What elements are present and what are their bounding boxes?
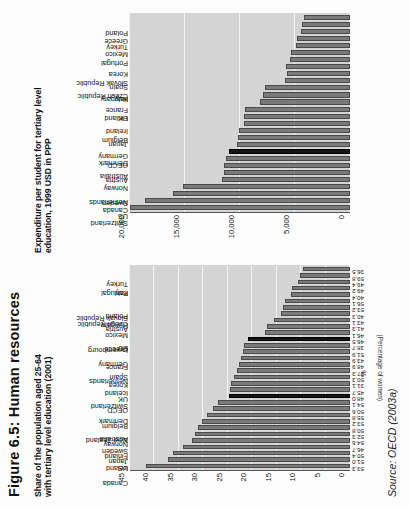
bar[interactable] bbox=[230, 387, 350, 392]
bar-slot[interactable]: Norway50.8 bbox=[130, 425, 350, 431]
bar[interactable] bbox=[297, 36, 350, 41]
bar[interactable] bbox=[146, 464, 350, 469]
bar-slot[interactable]: Czech Republic bbox=[130, 63, 350, 70]
bar-slot[interactable]: Poland bbox=[130, 14, 350, 21]
bar-slot[interactable]: Greece46.1 bbox=[130, 329, 350, 335]
bar-slot[interactable]: Canada53.3 bbox=[130, 463, 350, 469]
bar-slot[interactable]: Iceland50.3 bbox=[130, 374, 350, 380]
bar-slot[interactable]: Norway bbox=[130, 169, 350, 176]
bar[interactable] bbox=[234, 375, 350, 380]
bar-slot[interactable]: Canada bbox=[130, 190, 350, 197]
bar-slot[interactable]: Australia bbox=[130, 155, 350, 162]
bar-slot[interactable]: Netherlands bbox=[130, 176, 350, 183]
bar-slot[interactable]: Czech Republic40.4 bbox=[130, 291, 350, 297]
bar[interactable] bbox=[231, 381, 350, 386]
bar-slot[interactable]: Finland54.6 bbox=[130, 437, 350, 443]
bar-slot[interactable]: OECD48.0 bbox=[130, 393, 350, 399]
bar[interactable] bbox=[304, 15, 350, 20]
bar[interactable] bbox=[218, 400, 350, 405]
bar[interactable] bbox=[267, 324, 350, 329]
bar[interactable] bbox=[244, 343, 350, 348]
bar[interactable] bbox=[168, 457, 350, 462]
bar-slot[interactable]: EU46.5 bbox=[130, 336, 350, 342]
bar[interactable] bbox=[301, 29, 350, 34]
bar-slot[interactable]: Italy49.4 bbox=[130, 279, 350, 285]
bar[interactable] bbox=[173, 451, 350, 456]
bar[interactable] bbox=[298, 280, 350, 285]
bar[interactable] bbox=[283, 305, 350, 310]
bar[interactable] bbox=[245, 107, 350, 112]
bar[interactable] bbox=[195, 432, 350, 437]
bar[interactable] bbox=[202, 419, 350, 424]
bar-slot[interactable]: UK45.7 bbox=[130, 387, 350, 393]
bar[interactable] bbox=[260, 99, 350, 104]
bar[interactable] bbox=[229, 149, 350, 154]
bar[interactable] bbox=[244, 114, 350, 119]
bar-slot[interactable]: Germany bbox=[130, 134, 350, 141]
bar[interactable] bbox=[285, 78, 350, 83]
bar[interactable] bbox=[192, 438, 350, 443]
bar[interactable] bbox=[213, 406, 350, 411]
bar[interactable] bbox=[281, 311, 350, 316]
bar-slot[interactable]: US bbox=[130, 204, 350, 211]
bar[interactable] bbox=[274, 318, 350, 323]
bar-slot[interactable]: Turkey bbox=[130, 28, 350, 35]
bar-slot[interactable]: France51.9 bbox=[130, 348, 350, 354]
bar-slot[interactable]: Japan bbox=[130, 127, 350, 134]
bar[interactable] bbox=[207, 413, 350, 418]
bar[interactable] bbox=[292, 286, 350, 291]
bar[interactable] bbox=[290, 57, 350, 62]
bar-slot[interactable]: Mexico bbox=[130, 35, 350, 42]
bar-slot[interactable]: Korea bbox=[130, 56, 350, 63]
bar[interactable] bbox=[243, 349, 350, 354]
bar[interactable] bbox=[300, 273, 350, 278]
bar[interactable] bbox=[265, 330, 350, 335]
bar[interactable] bbox=[224, 170, 350, 175]
bar[interactable] bbox=[237, 142, 350, 147]
bar-slot[interactable]: Japan46.7 bbox=[130, 444, 350, 450]
bar-slot[interactable]: Italy bbox=[130, 84, 350, 91]
bar[interactable] bbox=[224, 163, 350, 168]
bar-slot[interactable]: Hungary bbox=[130, 77, 350, 84]
bar[interactable] bbox=[302, 22, 350, 27]
bar[interactable] bbox=[263, 92, 350, 97]
bar[interactable] bbox=[287, 71, 350, 76]
bar-slot[interactable]: Slovak Republic bbox=[130, 49, 350, 56]
bar-slot[interactable]: Poland56.1 bbox=[130, 298, 350, 304]
bar-slot[interactable]: Portugal bbox=[130, 42, 350, 49]
bar-slot[interactable]: Ireland bbox=[130, 113, 350, 120]
bar-slot[interactable]: Netherlands43.9 bbox=[130, 355, 350, 361]
bar-slot[interactable]: Belgium bbox=[130, 120, 350, 127]
bar-slot[interactable]: Switzerland bbox=[130, 197, 350, 204]
bar-slot[interactable]: UK bbox=[130, 106, 350, 113]
bar[interactable] bbox=[173, 191, 350, 196]
bar[interactable] bbox=[198, 425, 350, 430]
bar-slot[interactable]: Korea37.3 bbox=[130, 368, 350, 374]
bar[interactable] bbox=[239, 362, 350, 367]
bar-slot[interactable]: OECD bbox=[130, 148, 350, 155]
bar[interactable] bbox=[183, 445, 350, 450]
bar[interactable] bbox=[291, 292, 350, 297]
bar-slot[interactable]: Denmark54.1 bbox=[130, 399, 350, 405]
bar[interactable] bbox=[296, 43, 350, 48]
bar-slot[interactable]: Sweden52.3 bbox=[130, 431, 350, 437]
bar[interactable] bbox=[237, 368, 350, 373]
bar[interactable] bbox=[222, 177, 350, 182]
bar[interactable] bbox=[183, 184, 350, 189]
bar-slot[interactable]: Turkey36.5 bbox=[130, 266, 350, 272]
bar[interactable] bbox=[303, 267, 350, 272]
bar[interactable] bbox=[286, 64, 350, 69]
bar-slot[interactable]: Mexico43.1 bbox=[130, 317, 350, 323]
bar-slot[interactable]: Finland bbox=[130, 99, 350, 106]
bar[interactable] bbox=[226, 156, 350, 161]
bar-slot[interactable]: Austria bbox=[130, 162, 350, 169]
bar[interactable] bbox=[130, 205, 350, 210]
bar-slot[interactable]: Belgium50.6 bbox=[130, 406, 350, 412]
bar-slot[interactable]: Greece bbox=[130, 21, 350, 28]
bar-slot[interactable]: Denmark bbox=[130, 141, 350, 148]
bar-slot[interactable]: Hungary53.2 bbox=[130, 304, 350, 310]
bar[interactable] bbox=[285, 299, 350, 304]
bar-slot[interactable]: Austria40.3 bbox=[130, 310, 350, 316]
bar-slot[interactable]: Germany38.7 bbox=[130, 342, 350, 348]
bar[interactable] bbox=[239, 128, 350, 133]
